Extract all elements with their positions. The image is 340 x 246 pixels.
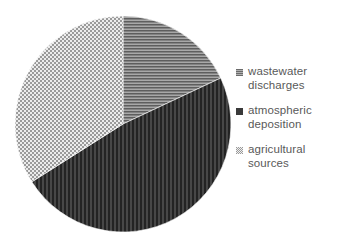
legend-item-label: atmospheric deposition xyxy=(248,103,312,131)
checker-crosshatch-swatch-icon xyxy=(236,147,243,154)
legend-item-atmospheric-deposition[interactable]: atmospheric deposition xyxy=(236,103,340,131)
legend-item-wastewater-discharges[interactable]: wastewater discharges xyxy=(236,64,340,92)
legend-item-label: agricultural sources xyxy=(248,142,305,170)
legend-item-label: wastewater discharges xyxy=(248,64,307,92)
pie-chart-figure: wastewater discharges atmospheric deposi… xyxy=(0,0,340,246)
chart-legend: wastewater discharges atmospheric deposi… xyxy=(236,64,340,181)
solid-dark-swatch-icon xyxy=(236,108,243,115)
horizontal-lines-swatch-icon xyxy=(236,69,243,76)
legend-item-agricultural-sources[interactable]: agricultural sources xyxy=(236,142,340,170)
pie-chart xyxy=(0,0,246,246)
